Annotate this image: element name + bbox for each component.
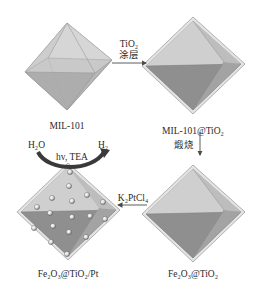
label-step-coating: 涂层 xyxy=(119,51,139,61)
label-mil101-tio2: MIL-101@TiO₂ xyxy=(162,127,224,137)
fe2o3-tio2-octahedron-icon xyxy=(142,165,245,262)
mil101-octahedron-icon xyxy=(25,23,112,110)
label-step-calcination: 煅烧 xyxy=(174,141,194,151)
label-step-coating-reagent: TiO₂ xyxy=(120,40,138,50)
fe2o3-tio2-pt-octahedron-icon xyxy=(17,163,120,260)
label-product: H₂ xyxy=(98,141,108,151)
label-fe2o3-tio2: Fe₂O₃@TiO₂ xyxy=(168,270,218,280)
label-step-pt-loading: K₂PtCl₄ xyxy=(118,194,148,204)
synthesis-diagram: MIL-101 MIL-101@TiO₂ Fe₂O₃@TiO₂ Fe₂O₃@Ti… xyxy=(0,0,261,295)
label-reaction-conditions: hv, TEA xyxy=(56,153,88,163)
mil101-tio2-octahedron-icon xyxy=(142,17,245,114)
label-fe2o3-tio2-pt: Fe₂O₃@TiO₂/Pt xyxy=(38,270,99,280)
label-reactant: H₂O xyxy=(28,141,45,151)
label-mil101: MIL-101 xyxy=(50,122,85,132)
